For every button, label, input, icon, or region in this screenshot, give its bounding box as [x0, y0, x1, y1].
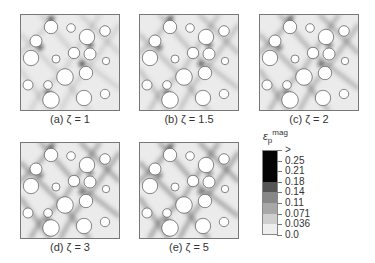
inclusion-void	[76, 218, 91, 233]
colorbar-tick-label: 0.14	[285, 187, 304, 197]
inclusion-void	[30, 35, 42, 47]
colorbar-tick-label: 0.21	[285, 166, 304, 176]
inclusion-void	[100, 26, 111, 37]
panel-caption-d: (d) ζ = 3	[10, 241, 130, 253]
inclusion-void	[187, 175, 198, 186]
inclusion-void	[79, 157, 94, 172]
inclusion-void	[339, 26, 350, 37]
inclusion-void	[221, 57, 228, 64]
inclusion-void	[162, 220, 179, 237]
inclusion-void	[163, 148, 176, 161]
inclusion-void	[44, 81, 53, 90]
inclusion-void	[176, 69, 193, 86]
legend-title-subscript: p	[268, 136, 272, 145]
inclusion-void	[318, 66, 331, 79]
colorbar-tick	[277, 182, 282, 183]
inclusion-void	[84, 48, 96, 60]
inclusion-void	[339, 89, 348, 98]
inclusion-void	[100, 89, 109, 98]
inclusion-void	[142, 208, 152, 218]
colorbar-tick-label: 0.036	[285, 219, 310, 229]
inclusion-void	[269, 35, 281, 47]
inclusion-void	[142, 178, 157, 193]
panel-caption-e: (e) ζ = 5	[129, 241, 249, 253]
inclusion-void	[67, 24, 76, 33]
panel-caption-b: (b) ζ = 1.5	[129, 113, 249, 125]
colorbar-tick	[277, 192, 282, 193]
strain-field-plot	[259, 14, 359, 111]
inclusion-void	[163, 81, 172, 90]
inclusion-void	[100, 154, 111, 165]
inclusion-void	[318, 29, 333, 44]
panel-caption-c: (c) ζ = 2	[249, 113, 369, 125]
inclusion-void	[323, 48, 335, 60]
inclusion-void	[203, 48, 215, 60]
panel-a	[20, 14, 120, 111]
inclusion-void	[84, 176, 96, 188]
panel-caption-a: (a) ζ = 1	[10, 113, 130, 125]
inclusion-void	[219, 217, 228, 226]
inclusion-void	[142, 80, 152, 90]
strain-field-plot	[139, 14, 239, 111]
inclusion-void	[23, 50, 38, 65]
inclusion-void	[23, 208, 33, 218]
inclusion-void	[262, 50, 277, 65]
colorbar-tick-label: 0.071	[285, 209, 310, 219]
inclusion-void	[67, 152, 76, 161]
inclusion-void	[23, 178, 38, 193]
inclusion-void	[341, 57, 348, 64]
inclusion-void	[142, 50, 157, 65]
inclusion-void	[195, 90, 210, 105]
inclusion-void	[315, 90, 330, 105]
colorbar-tick-label: 0.25	[285, 156, 304, 166]
strain-field-plot	[20, 142, 120, 239]
inclusion-void	[162, 92, 179, 109]
legend-title: εpmag	[263, 128, 288, 145]
inclusion-void	[186, 152, 195, 161]
inclusion-void	[262, 80, 272, 90]
inclusion-void	[306, 24, 315, 33]
inclusion-void	[163, 209, 172, 218]
inclusion-void	[282, 92, 299, 109]
strain-field-plot	[20, 14, 120, 111]
colorbar-tick-label: 0.11	[285, 198, 304, 208]
colorbar-tick	[277, 224, 282, 225]
legend-title-superscript: mag	[272, 128, 288, 137]
colorbar-tick-label: 0.18	[285, 177, 304, 187]
colorbar-tick-label: >	[285, 145, 291, 155]
inclusion-void	[102, 185, 109, 192]
inclusion-void	[219, 26, 230, 37]
inclusion-void	[198, 29, 213, 44]
inclusion-void	[52, 55, 60, 63]
inclusion-void	[307, 47, 318, 58]
inclusion-void	[186, 24, 195, 33]
inclusion-void	[219, 89, 228, 98]
strain-field-plot	[139, 142, 239, 239]
inclusion-void	[171, 55, 179, 63]
inclusion-void	[187, 47, 198, 58]
inclusion-void	[76, 90, 91, 105]
inclusion-void	[44, 148, 57, 161]
inclusion-void	[44, 20, 57, 33]
colorbar-legend: εpmag >0.250.210.180.140.110.0710.0360.0	[258, 128, 358, 243]
inclusion-void	[171, 183, 179, 191]
inclusion-void	[198, 194, 211, 207]
inclusion-void	[203, 176, 215, 188]
inclusion-void	[68, 175, 79, 186]
inclusion-void	[68, 47, 79, 58]
inclusion-void	[43, 92, 60, 109]
colorbar-tick	[277, 214, 282, 215]
inclusion-void	[149, 35, 161, 47]
inclusion-void	[291, 55, 299, 63]
inclusion-void	[23, 80, 33, 90]
inclusion-void	[100, 217, 109, 226]
inclusion-void	[52, 183, 60, 191]
inclusion-void	[198, 66, 211, 79]
colorbar-frame	[262, 150, 278, 235]
colorbar-tick	[277, 203, 282, 204]
colorbar-tick-label: 0.0	[285, 230, 299, 240]
inclusion-void	[149, 163, 161, 175]
inclusion-void	[283, 81, 292, 90]
colorbar-tick	[277, 161, 282, 162]
inclusion-void	[102, 57, 109, 64]
